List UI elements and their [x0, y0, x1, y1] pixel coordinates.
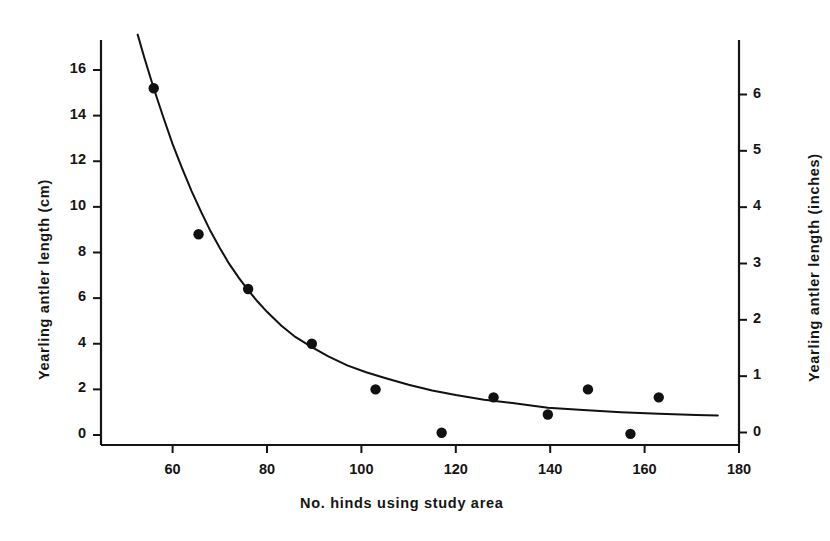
data-point [583, 384, 593, 394]
x-axis-tick-label-100: 100 [337, 461, 385, 477]
y-axis-right-tick-label-0: 0 [753, 423, 777, 439]
data-point [625, 429, 635, 439]
data-point [543, 409, 553, 419]
x-axis-tick-label-60: 60 [149, 461, 197, 477]
y-axis-left-ticks [93, 70, 101, 435]
y-axis-right-tick-label-4: 4 [753, 197, 777, 213]
y-axis-right-title: Yearling antler length (inches) [806, 153, 822, 382]
x-axis-tick-label-180: 180 [715, 461, 763, 477]
y-axis-left-tick-label-8: 8 [42, 243, 86, 259]
y-axis-left-tick-label-14: 14 [42, 106, 86, 122]
data-point [488, 392, 498, 402]
y-axis-right-tick-label-3: 3 [753, 254, 777, 270]
data-point [149, 83, 159, 93]
data-point [193, 229, 203, 239]
y-axis-right-tick-label-1: 1 [753, 366, 777, 382]
data-point [243, 284, 253, 294]
x-axis-tick-label-160: 160 [621, 461, 669, 477]
scatter-plot-canvas [0, 0, 830, 541]
x-axis-title: No. hinds using study area [300, 495, 504, 511]
data-point-group [149, 83, 664, 439]
data-point [654, 392, 664, 402]
data-point [370, 384, 380, 394]
y-axis-right-ticks [739, 95, 747, 433]
y-axis-left-tick-label-4: 4 [42, 334, 86, 350]
y-axis-left-tick-label-0: 0 [42, 425, 86, 441]
axes-group [101, 40, 739, 445]
figure-container: Yearling antler length (cm) Yearling ant… [0, 0, 830, 541]
x-axis-tick-label-140: 140 [526, 461, 574, 477]
y-axis-left-tick-label-10: 10 [42, 197, 86, 213]
y-axis-left-tick-label-6: 6 [42, 288, 86, 304]
x-axis-tick-label-80: 80 [243, 461, 291, 477]
y-axis-right-tick-label-6: 6 [753, 85, 777, 101]
x-axis-ticks [173, 445, 739, 453]
data-point [307, 339, 317, 349]
y-axis-right-tick-label-5: 5 [753, 141, 777, 157]
x-axis-tick-label-120: 120 [432, 461, 480, 477]
y-axis-right-tick-label-2: 2 [753, 310, 777, 326]
data-point [436, 428, 446, 438]
fitted-curve [138, 35, 718, 416]
y-axis-left-tick-label-16: 16 [42, 60, 86, 76]
y-axis-left-tick-label-2: 2 [42, 379, 86, 395]
y-axis-left-tick-label-12: 12 [42, 151, 86, 167]
